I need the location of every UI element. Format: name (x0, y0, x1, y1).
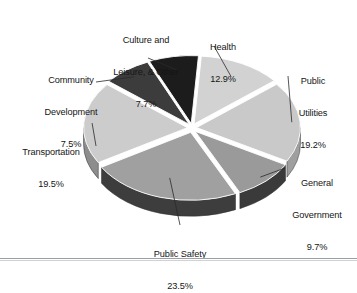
footer-rule (0, 258, 357, 259)
slice-label-percent: 19.2% (283, 140, 343, 151)
slice-label-line1: Health (196, 42, 250, 53)
slice-label-percent: 19.5% (9, 179, 93, 190)
slice-label-public-utilities: Public Utilities 19.2% (283, 55, 343, 172)
slice-label-percent: 7.7% (98, 99, 194, 110)
footer-rule-secondary (0, 260, 357, 261)
slice-label-line2: Leisure, & Other (98, 67, 194, 78)
slice-label-line2: Government (281, 210, 353, 221)
slice-label-percent: 7.5% (30, 139, 112, 150)
slice-label-line1: General (281, 178, 353, 189)
slice-label-percent: 12.9% (196, 74, 250, 85)
slice-label-percent: 9.7% (281, 242, 353, 253)
slice-label-line1: Culture and (98, 35, 194, 46)
slice-label-line2: Development (30, 107, 112, 118)
slice-label-general-government: General Government 9.7% (281, 157, 353, 274)
slice-label-line1: Community (30, 75, 112, 86)
slice-label-percent: 23.5% (137, 281, 223, 292)
slice-label-culture-and-leisure-other: Culture and Leisure, & Other 7.7% (98, 14, 194, 131)
slice-label-line1: Public (283, 76, 343, 87)
slice-label-line2: Utilities (283, 108, 343, 119)
slice-label-health: Health 12.9% (196, 21, 250, 106)
slice-label-community-development: Community Development 7.5% (30, 54, 112, 171)
